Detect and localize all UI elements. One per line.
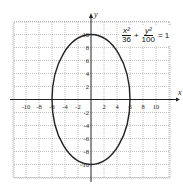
x-tick-label: -10: [22, 103, 31, 110]
denominator-y: 100: [141, 36, 156, 44]
y-tick-label: -2: [84, 109, 89, 116]
fraction-x: x² 36: [121, 27, 132, 44]
x-axis-label: x: [177, 88, 182, 97]
x-tick-label: -8: [36, 103, 41, 110]
denominator-x: 36: [121, 36, 132, 44]
y-tick-label: 4: [86, 70, 90, 77]
x-tick-label: -4: [62, 103, 68, 110]
y-axis-label: y: [93, 10, 98, 19]
y-axis-arrow-icon: [89, 13, 93, 18]
y-tick-label: -8: [84, 148, 89, 155]
y-tick-label: 6: [86, 57, 90, 64]
equation-label: x² 36 + y² 100 = 1: [119, 26, 171, 45]
x-tick-labels: -10-8-6-4-2246810: [22, 103, 160, 110]
x-tick-label: 8: [141, 103, 144, 110]
plus-sign: +: [134, 31, 139, 40]
y-tick-label: -6: [84, 135, 90, 142]
x-tick-label: 10: [153, 103, 160, 110]
y-tick-label: -4: [84, 122, 90, 129]
x-tick-label: -2: [75, 103, 80, 110]
x-tick-label: 4: [115, 103, 119, 110]
y-tick-label: 8: [86, 44, 89, 51]
y-tick-label: 2: [86, 83, 89, 90]
equals-one: = 1: [158, 31, 169, 40]
x-tick-label: 2: [102, 103, 105, 110]
x-axis-arrow-icon: [176, 98, 180, 102]
fraction-y: y² 100: [141, 27, 156, 44]
